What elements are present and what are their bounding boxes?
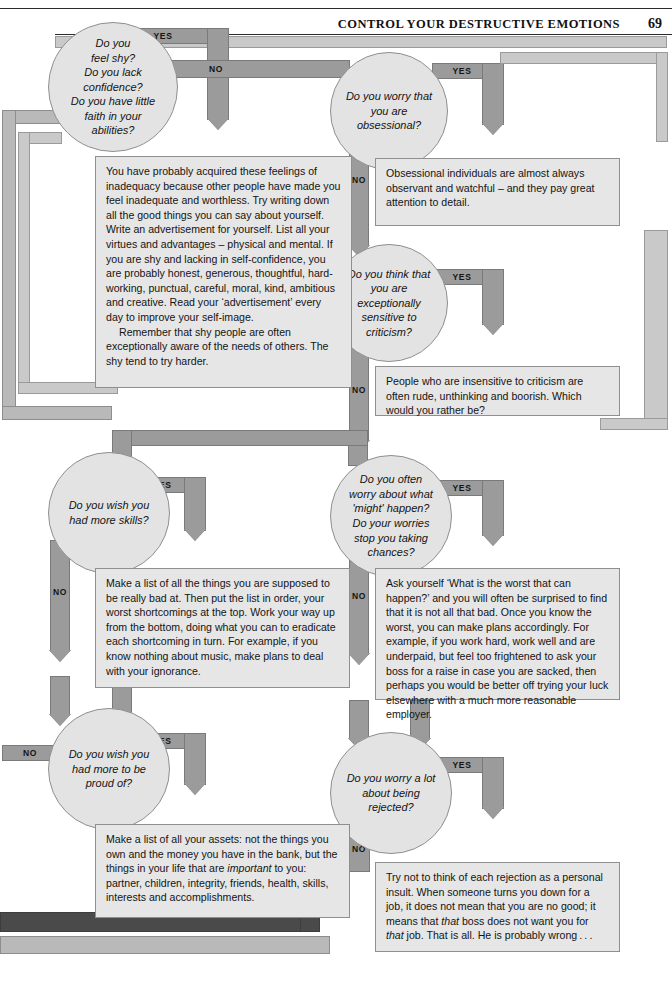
answer-paragraph: Try not to think of each rejection as a … <box>386 870 609 943</box>
flowchart-page: CONTROL YOUR DESTRUCTIVE EMOTIONS 69 YES… <box>0 0 672 982</box>
label-yes-obsessional: YES <box>440 67 484 76</box>
label-no-proud: NO <box>8 749 52 758</box>
answer-paragraph: You have probably acquired these feeling… <box>106 164 341 325</box>
connector-right-return-a <box>600 418 668 430</box>
connector-rejected-in-left <box>349 700 369 740</box>
page-number: 69 <box>648 16 662 32</box>
node-line: Do you worry that <box>346 89 432 104</box>
running-header-title: CONTROL YOUR DESTRUCTIVE EMOTIONS <box>338 17 620 32</box>
answer-text-c: job. That is all. He is probably wrong .… <box>404 929 593 941</box>
answer-paragraph: Remember that shy people are often excep… <box>106 325 341 369</box>
arrowhead-rejected-yes <box>482 807 504 819</box>
node-line: Do you wish you <box>69 498 150 513</box>
node-line: rejected? <box>347 800 436 815</box>
node-line: you are <box>348 281 431 296</box>
node-line: Do you worry a lot <box>347 771 436 786</box>
arrowhead-obsessional-yes <box>482 123 504 135</box>
node-line: criticism? <box>348 325 431 340</box>
node-line: Do you <box>71 36 155 51</box>
node-line: obsessional? <box>346 118 432 133</box>
node-line: Do your worries <box>349 516 433 531</box>
answer-paragraph: Make a list of all the things you are su… <box>106 576 339 678</box>
connector-bottom-bar-light <box>0 936 330 954</box>
answer-emphasis: important <box>227 862 271 874</box>
connector-left-spine-a <box>2 110 16 420</box>
connector-skills-yes-down <box>184 477 206 531</box>
node-line: had more skills? <box>69 513 150 528</box>
answer-emphasis-2: that <box>386 929 404 941</box>
connector-left-spine-b <box>18 132 30 394</box>
label-no-skills: NO <box>46 588 74 597</box>
answer-paragraph: Obsessional individuals are almost alway… <box>386 166 609 210</box>
arrowhead-skills-yes <box>184 529 206 541</box>
connector-proud-in-left <box>50 676 70 716</box>
answer-paragraph: People who are insensitive to criticism … <box>386 374 609 418</box>
question-node-obsessional[interactable]: Do you worry that you are obsessional? <box>330 52 448 170</box>
node-line: abilities? <box>71 123 155 138</box>
answer-box-rejected: Try not to think of each rejection as a … <box>375 862 620 952</box>
node-line: worry about what <box>349 487 433 502</box>
node-line: stop you taking <box>349 531 433 546</box>
node-line: 'might' happen? <box>349 501 433 516</box>
label-no-shy: NO <box>196 65 236 74</box>
connector-right-spine-a <box>656 52 668 142</box>
header-rule-top <box>0 8 672 9</box>
answer-box-shy: You have probably acquired these feeling… <box>95 156 352 388</box>
connector-bridge-cross <box>112 430 368 446</box>
node-line: chances? <box>349 545 433 560</box>
answer-paragraph: Make a list of all your assets: not the … <box>106 832 339 905</box>
connector-right-spine-b <box>644 230 668 430</box>
question-node-proud[interactable]: Do you wish you had more to be proud of? <box>48 708 170 830</box>
node-line: proud of? <box>69 776 150 791</box>
answer-text-b: boss does not want you for <box>459 915 589 927</box>
connector-shy-no <box>150 60 350 78</box>
label-yes-criticism: YES <box>440 273 484 282</box>
arrowhead-criticism-yes <box>482 323 504 335</box>
arrowhead-skills-no <box>49 650 71 662</box>
node-line: you are <box>346 104 432 119</box>
answer-box-skills: Make a list of all the things you are su… <box>95 568 350 688</box>
arrowhead-shy-yes <box>207 118 229 130</box>
answer-emphasis-1: that <box>441 915 459 927</box>
node-line: feel shy? <box>71 51 155 66</box>
connector-criticism-yes-down <box>482 269 504 325</box>
arrowhead-worry-yes <box>482 534 504 546</box>
node-line: Do you wish you <box>69 747 150 762</box>
question-node-shy[interactable]: Do you feel shy? Do you lack confidence?… <box>48 22 178 152</box>
node-line: Do you think that <box>348 267 431 282</box>
arrowhead-proud-yes <box>184 783 206 795</box>
node-line: sensitive to <box>348 310 431 325</box>
node-line: faith in your <box>71 109 155 124</box>
node-line: exceptionally <box>348 296 431 311</box>
arrowhead-worry-no <box>348 653 370 665</box>
connector-proud-yes-down <box>184 733 206 785</box>
connector-obsessional-yes-down <box>482 63 504 125</box>
connector-rejected-yes-down <box>482 757 504 809</box>
node-line: confidence? <box>71 80 155 95</box>
connector-right-top <box>500 52 668 64</box>
answer-box-proud: Make a list of all your assets: not the … <box>95 824 350 918</box>
answer-paragraph: Ask yourself ‘What is the worst that can… <box>386 576 609 722</box>
node-line: had more to be <box>69 762 150 777</box>
node-line: about being <box>347 786 436 801</box>
answer-box-criticism: People who are insensitive to criticism … <box>375 366 620 416</box>
connector-left-loop-b <box>2 406 112 420</box>
node-line: Do you often <box>349 472 433 487</box>
node-line: Do you have little <box>71 94 155 109</box>
node-line: Do you lack <box>71 65 155 80</box>
connector-worry-yes-down <box>482 480 504 536</box>
question-node-worry[interactable]: Do you often worry about what 'might' ha… <box>330 455 452 577</box>
question-node-skills[interactable]: Do you wish you had more skills? <box>48 452 170 574</box>
answer-box-worry: Ask yourself ‘What is the worst that can… <box>375 568 620 700</box>
answer-box-obsessional: Obsessional individuals are almost alway… <box>375 158 620 226</box>
